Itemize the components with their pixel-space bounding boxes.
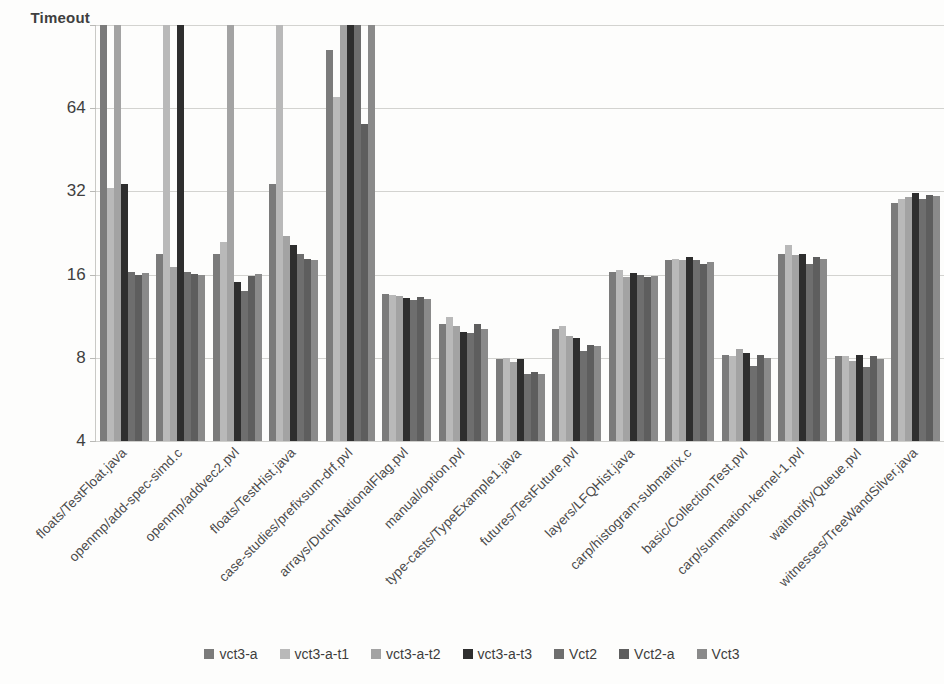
bar [700,264,707,441]
bar [623,277,630,441]
bar-group [213,25,262,441]
bar [460,332,467,441]
bar [340,25,347,441]
bar [573,338,580,441]
legend-label: vct3-a-t2 [386,646,440,662]
bar [100,25,107,441]
x-axis-label: basic/CollectionTest.pvl [639,445,751,557]
legend-label: vct3-a [219,646,257,662]
legend-swatch-icon [463,649,473,659]
bar [630,273,637,441]
y-axis-label-64: 64 [67,98,86,118]
bar [693,260,700,441]
bar [707,262,714,441]
bar [510,362,517,441]
bar [665,260,672,441]
bar [806,264,813,441]
bar [736,349,743,441]
bar [213,254,220,441]
bar [757,355,764,441]
bar [170,267,177,441]
legend-label: Vct3 [712,646,740,662]
bar [410,300,417,441]
y-axis-label-16: 16 [67,265,86,285]
bar-group [722,25,771,441]
bar [905,197,912,441]
bar [679,260,686,441]
legend-item[interactable]: Vct2-a [619,646,674,662]
bar [552,329,559,441]
legend-item[interactable]: Vct3 [697,646,740,662]
bar [297,254,304,441]
bar [255,274,262,441]
bar [616,270,623,441]
bar [856,355,863,441]
bar-group [609,25,658,441]
bar [467,333,474,441]
bar-group [326,25,375,441]
y-axis-label-32: 32 [67,181,86,201]
bar [651,276,658,441]
bar [241,291,248,441]
bar [672,259,679,441]
legend-item[interactable]: Vct2 [554,646,597,662]
bar-group [382,25,431,441]
bar [276,25,283,441]
y-axis-tick [90,25,96,26]
bar [424,299,431,441]
bar [227,25,234,441]
bar [396,296,403,441]
legend-item[interactable]: vct3-a-t2 [371,646,440,662]
legend-swatch-icon [204,649,214,659]
bar [439,324,446,441]
bar [919,199,926,441]
y-axis-tick [90,108,96,109]
bar [403,298,410,441]
bar [813,257,820,441]
bar [389,295,396,441]
bar [644,277,651,441]
bar [368,25,375,441]
bar [877,359,884,441]
y-axis-tick [90,191,96,192]
legend-item[interactable]: vct3-a-t1 [280,646,349,662]
x-axis-label: openmp/add-spec-simd.c [66,445,185,564]
legend-item[interactable]: vct3-a [204,646,257,662]
bar-group [439,25,488,441]
legend-swatch-icon [280,649,290,659]
bar [290,245,297,441]
legend-swatch-icon [554,649,564,659]
y-axis-tick [90,275,96,276]
bar [891,203,898,441]
bar [559,326,566,441]
bar [531,372,538,441]
bar [248,276,255,441]
chart-legend: vct3-avct3-a-t1vct3-a-t2vct3-a-t3Vct2Vct… [0,646,944,662]
bar [778,254,785,441]
legend-item[interactable]: vct3-a-t3 [463,646,532,662]
bar [177,25,184,441]
bar [333,97,340,441]
bar [580,351,587,441]
bar [453,326,460,441]
bar-group [665,25,714,441]
bar [729,356,736,441]
bar [686,257,693,441]
bar [764,358,771,441]
bar [361,124,368,441]
bar [594,346,601,441]
bar [863,367,870,441]
bar [849,361,856,441]
bar-group [156,25,205,441]
legend-label: vct3-a-t1 [295,646,349,662]
bar [121,184,128,441]
bar [792,255,799,441]
bar [912,193,919,441]
legend-swatch-icon [371,649,381,659]
x-axis-label: openmp/addvec2.pvl [142,445,242,545]
y-axis-tick [90,358,96,359]
bar-group [835,25,884,441]
bar [311,260,318,441]
bar [354,25,361,441]
bar [496,359,503,441]
